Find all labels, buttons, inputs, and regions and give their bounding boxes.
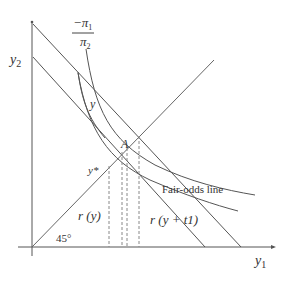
y-bar-label: y [89,97,96,111]
x-axis-label: y1 [253,253,266,270]
slope-denominator: π2 [80,34,91,51]
y-axis-label: y2 [8,52,21,69]
state-contingent-diagram: y2 y1 −π1 π2 y y* A Fair-odds line r (y)… [0,0,288,282]
r-y-t1-label: r (y + t1) [150,212,198,227]
angle-label: 45° [56,232,71,244]
y-axis-arrow [31,21,34,24]
fair-odds-label: Fair-odds line [162,183,223,195]
r-y-label: r (y) [78,208,101,223]
x-axis-arrow [271,245,276,249]
point-a-label: A [120,137,129,151]
y-star-label: y* [87,164,99,176]
slope-numerator: −π1 [73,15,92,32]
axes [18,22,274,256]
indifference-curve-upper [86,49,255,195]
